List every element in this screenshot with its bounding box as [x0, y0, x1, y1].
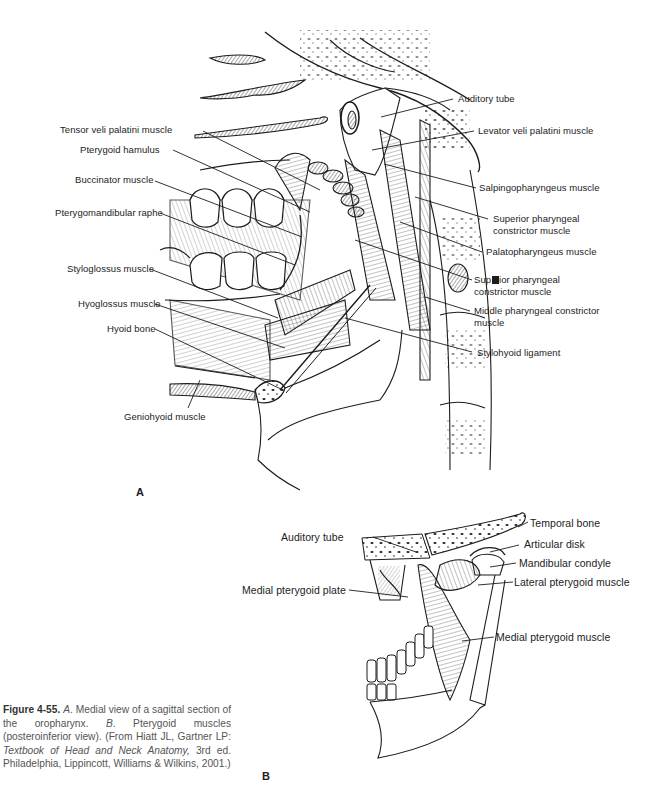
label-temporal-bone: Temporal bone	[530, 517, 600, 530]
figure-number: Figure 4-55.	[3, 704, 60, 715]
scan-artifact-icon	[492, 276, 499, 284]
label-lateral-pterygoid-muscle: Lateral pterygoid muscle	[514, 576, 630, 589]
figure-4-55: Tensor veli palatini muscle Pterygoid ha…	[0, 0, 655, 805]
label-hyoid-bone: Hyoid bone	[107, 323, 156, 335]
label-stylohyoid-ligament: Stylohyoid ligament	[477, 347, 560, 359]
label-pterygoid-hamulus: Pterygoid hamulus	[80, 144, 160, 156]
label-levator-veli-palatini-muscle: Levator veli palatini muscle	[478, 125, 593, 137]
label-superior-pharyngeal-constrictor-muscle: Superior pharyngeal constrictor muscle	[493, 213, 623, 237]
label-styloglossus-muscle: Styloglossus muscle	[67, 263, 154, 275]
label-auditory-tube: Auditory tube	[458, 93, 515, 105]
label-geniohyoid-muscle: Geniohyoid muscle	[124, 411, 206, 423]
label-hyoglossus-muscle: Hyoglossus muscle	[78, 298, 161, 310]
caption-letter-a: A	[63, 704, 70, 715]
label-auditory-tube-b: Auditory tube	[281, 531, 344, 544]
anatomical-illustration	[0, 0, 655, 805]
label-superior-pharyngeal-constrictor-muscle-2: Supior pharyngeal constrictor muscle	[474, 274, 594, 298]
label-pterygomandibular-raphe: Pterygomandibular raphe	[55, 207, 163, 219]
label-palatopharyngeus-muscle: Palatopharyngeus muscle	[486, 246, 596, 258]
panel-a-art	[160, 30, 491, 490]
label-tensor-veli-palatini-muscle: Tensor veli palatini muscle	[60, 124, 172, 136]
panel-b-letter: B	[262, 770, 270, 782]
panel-a-letter: A	[136, 486, 144, 498]
label-medial-pterygoid-plate: Medial pterygoid plate	[242, 584, 346, 597]
caption-letter-b: B	[106, 718, 113, 729]
label-medial-pterygoid-muscle: Medial pterygoid muscle	[496, 631, 610, 644]
label-articular-disk: Articular disk	[524, 538, 585, 551]
label-salpingopharyngeus-muscle: Salpingopharyngeus muscle	[479, 182, 600, 194]
label-mandibular-condyle: Mandibular condyle	[519, 557, 611, 570]
label-buccinator-muscle: Buccinator muscle	[75, 174, 153, 186]
label-middle-pharyngeal-constrictor-muscle: Middle pharyngeal constrictor muscle	[474, 305, 624, 329]
caption-book-title: Textbook of Head and Neck Anatomy,	[3, 745, 190, 756]
figure-caption: Figure 4-55. A. Medial view of a sagitta…	[3, 703, 231, 771]
